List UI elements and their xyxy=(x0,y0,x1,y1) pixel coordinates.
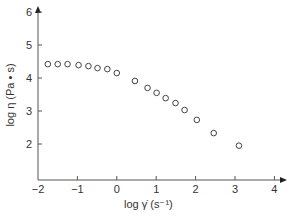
x-tick-label: 4 xyxy=(271,183,277,195)
y-tick-label: 5 xyxy=(26,39,32,51)
data-point xyxy=(132,78,138,84)
data-point xyxy=(95,65,101,71)
y-tick-label: 3 xyxy=(26,105,32,117)
x-axis-arrow-icon xyxy=(280,177,287,183)
data-point xyxy=(114,70,120,76)
data-point xyxy=(173,100,179,106)
data-point xyxy=(211,130,217,136)
data-point xyxy=(182,107,188,113)
x-tick-label: −2 xyxy=(32,183,45,195)
y-axis-label: log η (Pa • s) xyxy=(4,63,16,126)
y-tick-label: 6 xyxy=(26,6,32,18)
x-tick-label: 3 xyxy=(232,183,238,195)
data-point xyxy=(86,63,92,69)
x-tick-label: −1 xyxy=(71,183,84,195)
y-axis: 23456 xyxy=(26,6,42,180)
x-axis: −2−101234 xyxy=(32,176,287,195)
x-tick-label: 1 xyxy=(153,183,159,195)
y-tick-label: 2 xyxy=(26,138,32,150)
data-point xyxy=(236,143,242,149)
data-point xyxy=(194,117,200,123)
data-point xyxy=(145,85,151,91)
data-point xyxy=(76,62,82,68)
x-tick-label: 0 xyxy=(114,183,120,195)
data-point xyxy=(45,61,51,67)
chart: 23456 −2−101234 log γ̇ (s⁻¹) log η (Pa •… xyxy=(0,0,291,218)
x-tick-label: 2 xyxy=(193,183,199,195)
data-points xyxy=(45,61,242,148)
data-point xyxy=(105,66,111,72)
y-tick-label: 4 xyxy=(26,72,32,84)
data-point xyxy=(154,90,160,96)
data-point xyxy=(163,95,169,101)
data-point xyxy=(65,61,71,67)
x-axis-label: log γ̇ (s⁻¹) xyxy=(124,198,173,210)
data-point xyxy=(55,61,61,67)
